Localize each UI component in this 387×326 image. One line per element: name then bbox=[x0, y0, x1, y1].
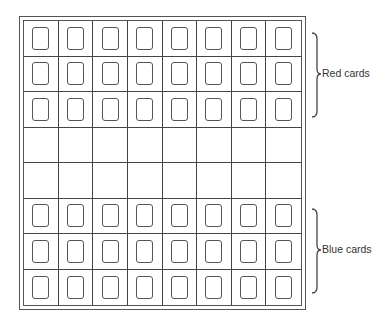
grid-cell bbox=[128, 270, 163, 306]
grid-cell bbox=[266, 21, 301, 57]
grid-cell bbox=[93, 21, 128, 57]
red-card bbox=[32, 27, 49, 50]
red-card bbox=[67, 62, 84, 85]
board-grid bbox=[24, 21, 301, 305]
grid-cell bbox=[232, 270, 267, 306]
grid-cell bbox=[163, 57, 198, 93]
grid-cell bbox=[59, 234, 94, 270]
grid-cell bbox=[266, 199, 301, 235]
grid-cell bbox=[128, 163, 163, 199]
grid-cell bbox=[24, 234, 59, 270]
grid-cell bbox=[128, 234, 163, 270]
blue-card bbox=[240, 204, 257, 227]
blue-card bbox=[102, 276, 119, 299]
blue-card bbox=[240, 276, 257, 299]
grid-cell bbox=[232, 199, 267, 235]
red-card bbox=[102, 62, 119, 85]
grid-cell bbox=[266, 163, 301, 199]
red-card bbox=[171, 98, 188, 121]
grid-cell bbox=[128, 57, 163, 93]
red-card bbox=[205, 62, 222, 85]
blue-card bbox=[102, 204, 119, 227]
grid-cell bbox=[93, 57, 128, 93]
blue-card bbox=[275, 204, 292, 227]
red-card bbox=[275, 27, 292, 50]
grid-cell bbox=[24, 57, 59, 93]
grid-cell bbox=[232, 21, 267, 57]
red-card bbox=[136, 27, 153, 50]
grid-cell bbox=[197, 21, 232, 57]
grid-cell bbox=[59, 199, 94, 235]
grid-cell bbox=[197, 92, 232, 128]
grid-cell bbox=[163, 92, 198, 128]
grid-cell bbox=[163, 270, 198, 306]
grid-cell bbox=[93, 234, 128, 270]
red-card bbox=[136, 62, 153, 85]
red-card bbox=[240, 98, 257, 121]
red-card bbox=[171, 62, 188, 85]
red-card bbox=[102, 98, 119, 121]
grid-cell bbox=[59, 21, 94, 57]
grid-cell bbox=[24, 21, 59, 57]
blue-card bbox=[240, 240, 257, 263]
grid-cell bbox=[266, 234, 301, 270]
grid-cell bbox=[163, 199, 198, 235]
grid-cell bbox=[93, 199, 128, 235]
grid-cell bbox=[163, 163, 198, 199]
grid-cell bbox=[93, 163, 128, 199]
blue-cards-label: Blue cards bbox=[322, 243, 372, 255]
red-card bbox=[205, 27, 222, 50]
red-card bbox=[67, 27, 84, 50]
blue-card bbox=[67, 204, 84, 227]
blue-card bbox=[171, 276, 188, 299]
red-card bbox=[32, 62, 49, 85]
grid-cell bbox=[93, 270, 128, 306]
grid-cell bbox=[24, 163, 59, 199]
red-card bbox=[136, 98, 153, 121]
blue-card bbox=[32, 276, 49, 299]
grid-cell bbox=[266, 270, 301, 306]
blue-card bbox=[67, 240, 84, 263]
red-cards-label: Red cards bbox=[322, 67, 370, 79]
blue-card bbox=[205, 240, 222, 263]
blue-card bbox=[102, 240, 119, 263]
blue-card bbox=[136, 276, 153, 299]
grid-cell bbox=[93, 92, 128, 128]
blue-card bbox=[67, 276, 84, 299]
grid-cell bbox=[232, 57, 267, 93]
grid-cell bbox=[59, 128, 94, 164]
grid-cell bbox=[232, 163, 267, 199]
grid-cell bbox=[163, 128, 198, 164]
blue-card bbox=[275, 240, 292, 263]
grid-cell bbox=[128, 21, 163, 57]
blue-card bbox=[171, 204, 188, 227]
grid-cell bbox=[266, 92, 301, 128]
red-card bbox=[171, 27, 188, 50]
grid-cell bbox=[197, 57, 232, 93]
grid-cell bbox=[24, 128, 59, 164]
grid-cell bbox=[197, 270, 232, 306]
red-card bbox=[32, 98, 49, 121]
red-card bbox=[275, 62, 292, 85]
blue-card bbox=[32, 204, 49, 227]
red-card bbox=[275, 98, 292, 121]
grid-cell bbox=[266, 128, 301, 164]
grid-cell bbox=[24, 270, 59, 306]
red-card bbox=[240, 27, 257, 50]
blue-card bbox=[171, 240, 188, 263]
grid-cell bbox=[266, 57, 301, 93]
grid-cell bbox=[197, 199, 232, 235]
grid-cell bbox=[24, 92, 59, 128]
grid-cell bbox=[59, 163, 94, 199]
red-card bbox=[102, 27, 119, 50]
grid-cell bbox=[163, 234, 198, 270]
grid-cell bbox=[232, 234, 267, 270]
grid-cell bbox=[128, 128, 163, 164]
red-card bbox=[205, 98, 222, 121]
grid-cell bbox=[232, 92, 267, 128]
grid-cell bbox=[59, 57, 94, 93]
blue-card bbox=[275, 276, 292, 299]
grid-cell bbox=[93, 128, 128, 164]
blue-card bbox=[205, 204, 222, 227]
grid-cell bbox=[59, 92, 94, 128]
